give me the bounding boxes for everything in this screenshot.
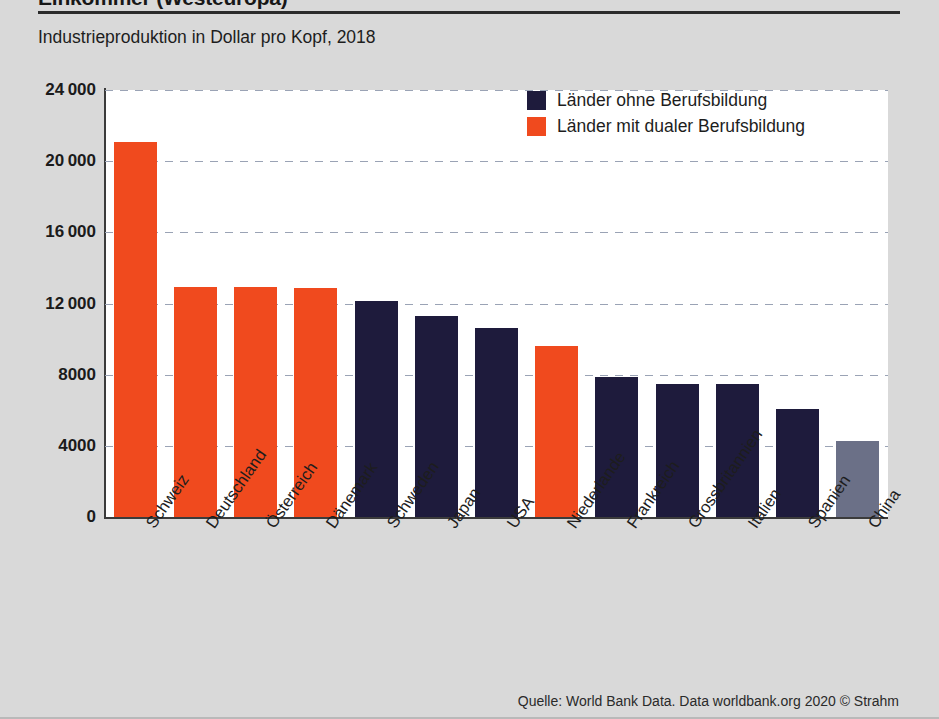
source-note: Quelle: World Bank Data. Data worldbank.… bbox=[518, 693, 899, 709]
y-axis-tick-label: 4000 bbox=[4, 436, 96, 456]
y-axis-tick-labels: 04000800012 00016 00020 00024 000 bbox=[0, 0, 96, 719]
chart-legend: Länder ohne BerufsbildungLänder mit dual… bbox=[527, 90, 877, 142]
y-axis-tick-label: 12 000 bbox=[4, 294, 96, 314]
legend-item-label: Länder mit dualer Berufsbildung bbox=[557, 116, 805, 137]
legend-swatch-icon bbox=[527, 91, 546, 110]
legend-item-label: Länder ohne Berufsbildung bbox=[557, 90, 767, 111]
legend-swatch-icon bbox=[527, 117, 546, 136]
bar-usa[interactable] bbox=[475, 328, 518, 517]
bar-schweiz[interactable] bbox=[114, 142, 157, 517]
bar-niederlande[interactable] bbox=[535, 346, 578, 517]
y-axis-tick-label: 16 000 bbox=[4, 222, 96, 242]
y-axis-tick-label: 0 bbox=[4, 507, 96, 527]
legend-item[interactable]: Länder ohne Berufsbildung bbox=[527, 90, 877, 111]
y-axis-tick-label: 24 000 bbox=[4, 80, 96, 100]
x-axis-tick-labels: SchweizDeutschlandÖsterreichDänemarkSchw… bbox=[105, 521, 905, 671]
y-axis-tick-label: 8000 bbox=[4, 365, 96, 385]
bar-spanien[interactable] bbox=[776, 409, 819, 517]
legend-item[interactable]: Länder mit dualer Berufsbildung bbox=[527, 116, 877, 137]
headline-divider bbox=[38, 11, 900, 14]
chart-figure: Einkommer (Westeuropa) Industrieprodukti… bbox=[0, 0, 939, 719]
bar-series bbox=[105, 90, 888, 517]
y-axis-tick-label: 20 000 bbox=[4, 151, 96, 171]
